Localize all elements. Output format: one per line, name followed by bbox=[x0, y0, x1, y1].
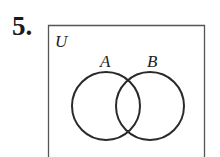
venn-diagram: U A B bbox=[0, 0, 220, 157]
universe-label: U bbox=[55, 32, 69, 51]
set-a-circle bbox=[72, 72, 140, 140]
set-b-label: B bbox=[147, 52, 158, 71]
set-a-label: A bbox=[99, 52, 111, 71]
set-b-circle bbox=[116, 72, 184, 140]
